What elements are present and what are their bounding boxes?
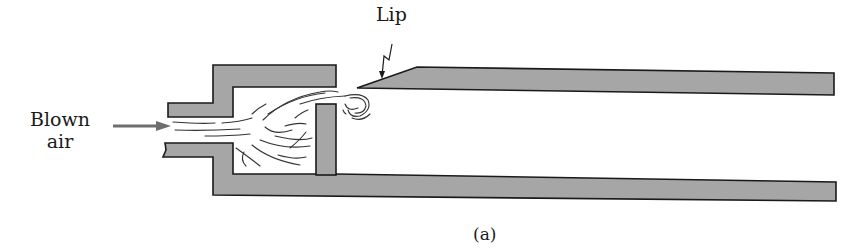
blown-air-arrow-icon bbox=[113, 121, 171, 131]
blown-air-label: Blown air bbox=[20, 108, 100, 152]
blown-air-label-line1: Blown bbox=[20, 108, 100, 130]
vortex bbox=[343, 95, 370, 120]
chamber-upper-wall bbox=[168, 65, 336, 117]
lip-and-upper-tube-wall bbox=[357, 67, 834, 95]
lip-label: Lip bbox=[376, 3, 407, 25]
divider-wall bbox=[316, 104, 336, 175]
blown-air-label-line2: air bbox=[20, 130, 100, 152]
chamber-lower-wall bbox=[163, 143, 836, 201]
figure-caption: (a) bbox=[473, 223, 496, 245]
flue-pipe-diagram bbox=[0, 0, 857, 252]
lip-pointer-icon bbox=[379, 44, 392, 79]
